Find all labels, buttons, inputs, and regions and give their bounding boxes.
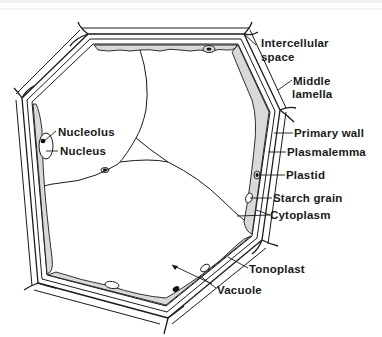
organelle-bottom-right xyxy=(199,263,211,274)
strand-vertical xyxy=(136,50,147,138)
scan-bleed-through xyxy=(0,0,382,10)
label-intercellular-space-2: space xyxy=(261,51,295,63)
cytoplasm-top xyxy=(94,45,237,52)
cytoplasm-left xyxy=(33,104,52,274)
plasmalemma-line xyxy=(32,44,270,306)
label-nucleolus: Nucleolus xyxy=(58,126,115,138)
strand-lower xyxy=(120,160,244,220)
labels: Intercellular space Middle lamella Prima… xyxy=(58,37,366,296)
junction-bottom xyxy=(164,318,168,334)
label-nucleus: Nucleus xyxy=(60,145,106,157)
label-plastid: Plastid xyxy=(286,169,325,181)
junction-right-mid xyxy=(280,107,296,110)
label-middle-lamella-1: Middle xyxy=(293,75,331,87)
label-vacuole: Vacuole xyxy=(217,284,262,296)
label-starch-grain: Starch grain xyxy=(273,192,343,204)
strand-right-arc xyxy=(136,138,168,162)
junction-left-bottom-b xyxy=(38,283,56,288)
label-plasmalemma: Plasmalemma xyxy=(287,146,366,158)
junction-right-low xyxy=(262,240,278,246)
nucleolus xyxy=(41,139,46,143)
leader-cytoplasm-a xyxy=(256,210,270,215)
junction-right-mid-b xyxy=(280,110,294,122)
plant-cell-diagram: Intercellular space Middle lamella Prima… xyxy=(0,0,382,337)
leader-middle-lamella xyxy=(278,80,292,90)
junction-left-bottom xyxy=(24,283,38,290)
label-tonoplast: Tonoplast xyxy=(249,263,305,275)
cytoplasm-right xyxy=(232,45,269,234)
label-cytoplasm: Cytoplasm xyxy=(270,209,331,221)
cytoplasm-layer xyxy=(33,45,269,305)
label-primary-wall: Primary wall xyxy=(294,127,364,139)
nucleus xyxy=(39,133,53,159)
label-intercellular-space-1: Intercellular xyxy=(261,37,329,49)
label-middle-lamella-2: lamella xyxy=(292,88,333,100)
neighbour-wall-upper-left xyxy=(16,30,80,94)
